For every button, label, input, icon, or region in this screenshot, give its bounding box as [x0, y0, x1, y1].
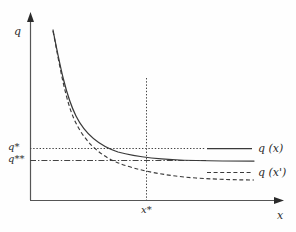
plot-canvas [0, 0, 296, 232]
q-star-label: q* [8, 142, 19, 152]
curve-q-x [53, 30, 254, 161]
legend-label-q-x-prime: q (x') [258, 167, 286, 178]
legend-label-q-x: q (x) [258, 143, 283, 154]
x-axis-arrowhead [274, 197, 284, 204]
y-axis-arrowhead [27, 12, 34, 22]
x-axis [30, 197, 284, 204]
economics-quantity-figure: q x q* q** x* q (x) q (x') [0, 0, 296, 232]
y-axis-label: q [14, 26, 21, 37]
q-double-star-label: q** [8, 154, 24, 164]
x-star-label: x* [141, 205, 152, 215]
y-axis [27, 12, 34, 200]
x-axis-label: x [277, 210, 283, 221]
